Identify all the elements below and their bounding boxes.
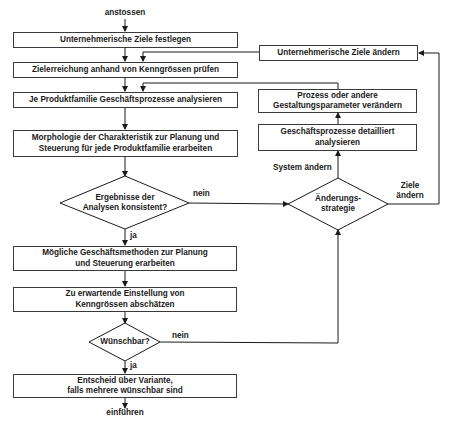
step-analyze-processes[interactable]: Je Produktfamilie Geschäftsprozesse anal… (13, 92, 238, 108)
end-label: einführen (100, 408, 150, 418)
desirable-no-label: nein (172, 331, 189, 341)
start-label: anstossen (100, 8, 150, 18)
consistent-yes-label: ja (130, 231, 137, 241)
side-change-goals[interactable]: Unternehmerische Ziele ändern (259, 45, 418, 61)
desirable-yes-label: ja (130, 361, 137, 371)
step-set-goals[interactable]: Unternehmerische Ziele festlegen (13, 32, 238, 48)
step-decide-variant[interactable]: Entscheid über Variante, falls mehrere w… (13, 374, 237, 398)
consistent-no-label: nein (193, 189, 210, 199)
step-morphology[interactable]: Morphologie der Charakteristik zur Planu… (13, 130, 238, 157)
decision-strategy[interactable]: Änderungs- strategie (303, 192, 373, 216)
side-detailed-analysis[interactable]: Geschäftsprozesse detailliert analysiere… (258, 124, 417, 151)
system-change-label: System ändern (273, 163, 332, 173)
decision-desirable[interactable]: Wünschbar? (95, 336, 155, 348)
step-check-kpis[interactable]: Zielerreichung anhand von Kenngrössen pr… (13, 62, 238, 78)
step-possible-methods[interactable]: Mögliche Geschäftsmethoden zur Planung u… (13, 246, 237, 271)
side-change-parameters[interactable]: Prozess oder andere Gestaltungsparameter… (258, 89, 417, 113)
goals-change-label: Ziele ändern (393, 181, 427, 201)
step-estimate-kpis[interactable]: Zu erwartende Einstellung von Kenngrösse… (13, 287, 237, 312)
decision-consistent[interactable]: Ergebnisse der Analysen konsistent? (75, 190, 175, 216)
